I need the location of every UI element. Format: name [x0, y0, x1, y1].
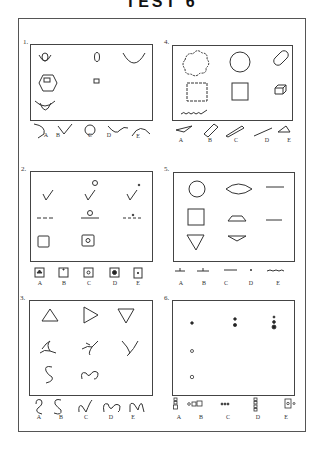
problem-2-label-c: C [82, 280, 96, 286]
problem-6-figures [173, 301, 296, 397]
problem-2-matrix [30, 171, 153, 262]
problem-5-answers[interactable] [174, 267, 294, 275]
problem-4-matrix [172, 45, 293, 121]
problem-5-label-b: B [197, 280, 211, 286]
problem-4-figures [173, 46, 294, 122]
problem-3-number: 3. [20, 294, 25, 302]
problem-5-label-a: A [174, 280, 188, 286]
problem-1-figures [31, 45, 154, 122]
problem-6-answers[interactable] [174, 398, 294, 412]
page-title: TEST 6 [0, 0, 323, 11]
problem-3-label-d: D [104, 414, 118, 420]
problem-2-figures [31, 172, 154, 263]
problem-4-label-b: B [203, 137, 217, 143]
problem-1-matrix [30, 44, 153, 121]
problem-1-label-c: C [83, 132, 97, 138]
problem-1-label-d: D [102, 132, 116, 138]
problem-6-label-d: D [251, 414, 265, 420]
problem-5-label-e: E [271, 280, 285, 286]
problem-5-figures [174, 173, 296, 263]
problem-6-number: 6. [164, 294, 169, 302]
problem-5-label-d: D [244, 280, 258, 286]
problem-3-figures [30, 301, 154, 397]
problem-4-label-a: A [174, 137, 188, 143]
problem-5-label-c: C [219, 280, 233, 286]
problem-6-label-e: E [279, 414, 293, 420]
problem-4-number: 4. [164, 38, 169, 46]
problem-5-number: 5. [164, 165, 169, 173]
problem-1-number: 1. [23, 38, 28, 46]
problem-3-label-c: C [79, 414, 93, 420]
problem-2-number: 2. [21, 165, 26, 173]
problem-4-answers[interactable] [174, 124, 294, 138]
problem-1-label-e: E [131, 133, 145, 139]
problem-5-matrix [173, 172, 295, 262]
problem-6-label-b: B [194, 414, 208, 420]
problem-3-label-e: E [126, 414, 140, 420]
problem-2-label-a: A [33, 280, 47, 286]
problem-2-label-b: B [57, 280, 71, 286]
problem-6-label-a: A [172, 414, 186, 420]
problem-1-label-b: B [51, 132, 65, 138]
problem-2-label-d: D [108, 280, 122, 286]
problem-4-label-c: C [229, 137, 243, 143]
problem-6-label-c: C [221, 414, 235, 420]
problem-2-answers[interactable] [34, 267, 154, 279]
problem-4-label-e: E [282, 137, 296, 143]
problem-3-label-b: B [54, 414, 68, 420]
problem-6-matrix [172, 300, 295, 396]
problem-3-matrix [29, 300, 153, 396]
problem-2-label-e: E [131, 280, 145, 286]
problem-4-label-d: D [260, 137, 274, 143]
problem-3-label-a: A [32, 414, 46, 420]
